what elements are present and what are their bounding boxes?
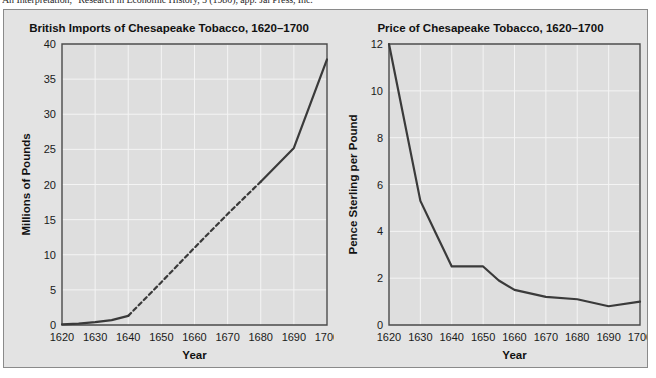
svg-text:Millions of Pounds: Millions of Pounds <box>20 133 32 235</box>
svg-text:20: 20 <box>44 179 56 191</box>
svg-text:10: 10 <box>371 85 383 97</box>
chart-price: Price of Chesapeake Tobacco, 1620–1700 0… <box>334 10 647 367</box>
svg-text:0: 0 <box>377 319 383 331</box>
svg-text:5: 5 <box>50 284 56 296</box>
svg-text:1640: 1640 <box>440 331 464 343</box>
svg-text:4: 4 <box>377 225 383 237</box>
svg-text:1650: 1650 <box>149 331 173 343</box>
source-caption: An Interpretation," Research in Economic… <box>2 0 654 5</box>
svg-text:2: 2 <box>377 272 383 284</box>
svg-text:Year: Year <box>182 349 207 361</box>
svg-text:30: 30 <box>44 108 56 120</box>
chart-imports: British Imports of Chesapeake Tobacco, 1… <box>4 10 334 367</box>
svg-text:1670: 1670 <box>534 331 558 343</box>
svg-text:Year: Year <box>502 349 527 361</box>
svg-text:1690: 1690 <box>596 331 620 343</box>
svg-text:1690: 1690 <box>282 331 306 343</box>
svg-text:1630: 1630 <box>408 331 432 343</box>
svg-text:25: 25 <box>44 143 56 155</box>
svg-text:1660: 1660 <box>502 331 526 343</box>
svg-text:1680: 1680 <box>565 331 589 343</box>
svg-text:15: 15 <box>44 214 56 226</box>
chart-imports-plot: 0510152025303540162016301640165016601670… <box>4 38 334 369</box>
svg-text:1650: 1650 <box>471 331 495 343</box>
svg-text:0: 0 <box>50 319 56 331</box>
svg-text:12: 12 <box>371 38 383 50</box>
svg-text:1680: 1680 <box>249 331 273 343</box>
svg-text:35: 35 <box>44 73 56 85</box>
svg-text:1660: 1660 <box>182 331 206 343</box>
svg-text:40: 40 <box>44 38 56 50</box>
svg-text:Pence Sterling per Pound: Pence Sterling per Pound <box>347 115 359 255</box>
svg-text:1700: 1700 <box>315 331 334 343</box>
svg-text:10: 10 <box>44 249 56 261</box>
figure-panel: British Imports of Chesapeake Tobacco, 1… <box>3 9 648 368</box>
svg-text:1640: 1640 <box>116 331 140 343</box>
chart-price-plot: 0246810121620163016401650166016701680169… <box>334 38 647 369</box>
svg-text:6: 6 <box>377 179 383 191</box>
chart-imports-title: British Imports of Chesapeake Tobacco, 1… <box>4 22 334 34</box>
svg-text:1670: 1670 <box>215 331 239 343</box>
svg-text:1620: 1620 <box>377 331 401 343</box>
svg-text:1620: 1620 <box>50 331 74 343</box>
svg-text:1700: 1700 <box>628 331 647 343</box>
svg-text:1630: 1630 <box>83 331 107 343</box>
svg-text:8: 8 <box>377 132 383 144</box>
chart-price-title: Price of Chesapeake Tobacco, 1620–1700 <box>334 22 647 34</box>
